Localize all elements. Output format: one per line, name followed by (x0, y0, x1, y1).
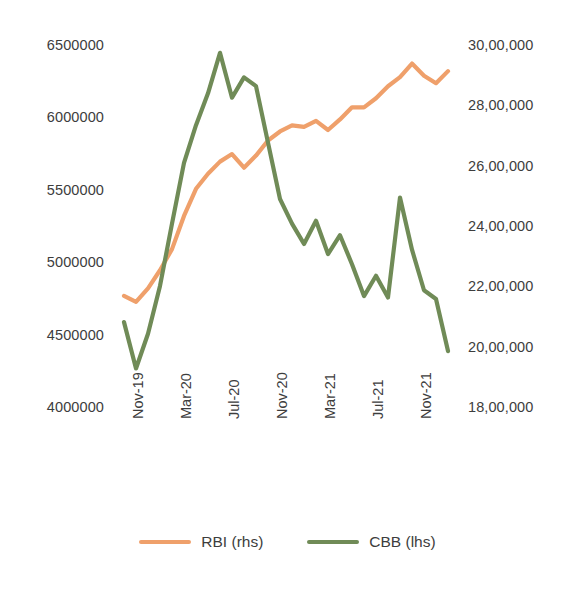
legend-item[interactable]: RBI (rhs) (139, 533, 263, 551)
legend-item[interactable]: CBB (lhs) (307, 533, 435, 551)
line-chart: 4000000450000050000005500000600000065000… (0, 0, 575, 593)
y-tick-label-right: 26,00,000 (468, 158, 533, 174)
y-tick-label-right: 22,00,000 (468, 278, 533, 294)
x-tick-label: Mar-21 (322, 373, 338, 419)
y-tick-label-left: 4500000 (47, 327, 104, 343)
x-tick-label: Nov-21 (418, 372, 434, 419)
legend-swatch-line-icon (307, 540, 359, 544)
series-line (124, 64, 448, 302)
x-tick-label: Nov-20 (274, 372, 290, 419)
series-line (124, 53, 448, 369)
y-tick-label-right: 20,00,000 (468, 339, 533, 355)
x-tick-label: Jul-20 (226, 380, 242, 420)
y-tick-label-right: 30,00,000 (468, 37, 533, 53)
legend-label: CBB (lhs) (369, 533, 435, 551)
legend-swatch-line-icon (139, 540, 191, 544)
y-tick-label-left: 6500000 (47, 37, 104, 53)
plot-area (0, 0, 575, 593)
y-tick-label-left: 5500000 (47, 182, 104, 198)
y-tick-label-right: 18,00,000 (468, 399, 533, 415)
x-tick-label: Jul-21 (370, 380, 386, 420)
y-tick-label-left: 5000000 (47, 254, 104, 270)
legend-label: RBI (rhs) (201, 533, 263, 551)
y-tick-label-left: 4000000 (47, 399, 104, 415)
y-tick-label-right: 28,00,000 (468, 97, 533, 113)
x-tick-label: Nov-19 (130, 372, 146, 419)
y-tick-label-left: 6000000 (47, 109, 104, 125)
chart-legend: RBI (rhs)CBB (lhs) (0, 533, 575, 551)
y-tick-label-right: 24,00,000 (468, 218, 533, 234)
x-tick-label: Mar-20 (178, 373, 194, 419)
